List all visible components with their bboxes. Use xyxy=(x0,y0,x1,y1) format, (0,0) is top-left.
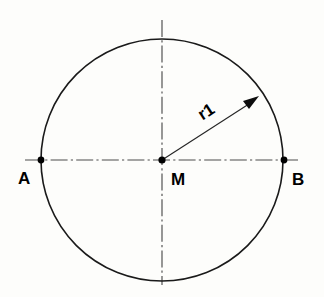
point-m-dot xyxy=(158,156,165,163)
circle-diagram: A M B r1 xyxy=(0,0,324,297)
point-m-label: M xyxy=(171,170,185,189)
technical-drawing-canvas: A M B r1 xyxy=(0,0,324,297)
point-b-label: B xyxy=(292,170,304,189)
point-a-dot xyxy=(38,157,45,164)
point-a-label: A xyxy=(18,169,30,188)
radius-arrowhead-icon xyxy=(243,96,259,109)
point-b-dot xyxy=(281,157,288,164)
radius-dimension-label: r1 xyxy=(194,99,218,124)
